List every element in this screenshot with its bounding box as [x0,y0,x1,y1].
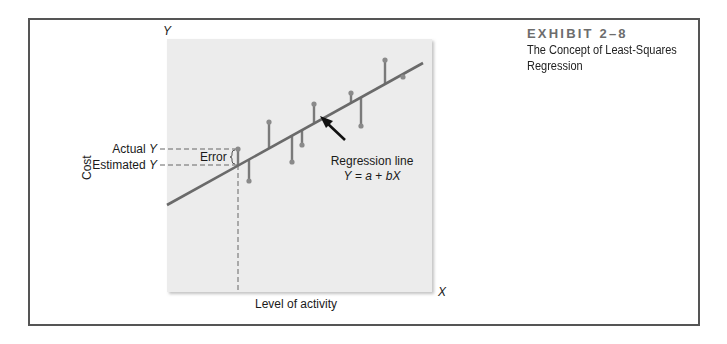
error-label: Error [200,150,227,164]
estimated-y-label: Estimated Y [92,158,158,172]
data-point [299,142,304,147]
regression-line-label: Regression line [331,154,414,168]
data-point [266,119,271,124]
x-axis-symbol: X [437,285,447,299]
regression-equation: Y = a + bX [344,169,402,183]
data-point [400,74,405,79]
regression-chart: Y X Level of activity Cost Actual Y Esti… [0,0,727,344]
data-point [289,159,294,164]
data-point [311,101,316,106]
actual-y-label: Actual Y [112,142,158,156]
data-point [358,123,363,128]
data-point [246,178,251,183]
x-axis-label: Level of activity [255,297,337,311]
data-point [235,146,240,151]
data-point [348,90,353,95]
y-axis-symbol: Y [163,24,172,38]
data-point [382,57,387,62]
